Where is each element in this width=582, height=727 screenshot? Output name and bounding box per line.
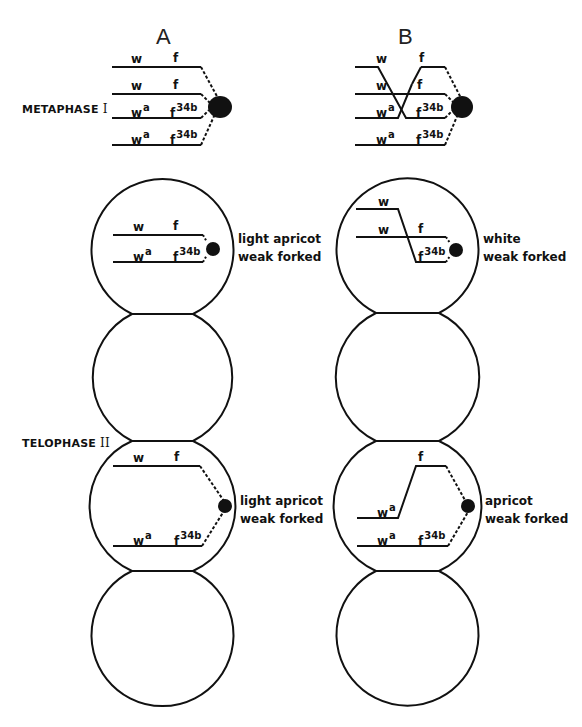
gene-f34b: f34b <box>418 531 445 547</box>
gene-wa: wa <box>133 531 152 547</box>
gene-w: w <box>133 221 144 233</box>
centromere-meta-a <box>208 96 232 118</box>
gene-w: w <box>376 80 387 92</box>
phenotype-line: white <box>483 230 566 248</box>
phenotype-line: weak forked <box>238 248 321 266</box>
phenotype-line: apricot <box>485 492 568 510</box>
centromere-top-a <box>206 242 220 256</box>
gene-w: w <box>131 53 142 65</box>
cells-column-a <box>90 179 236 706</box>
gene-wa: wa <box>376 103 395 119</box>
gene-f34b: f34b <box>174 531 201 547</box>
phenotype-line: light apricot <box>238 230 321 248</box>
gene-f34b: f34b <box>416 130 443 146</box>
phenotype-line: weak forked <box>485 510 568 528</box>
phenotype-line: weak forked <box>483 248 566 266</box>
gene-f34b: f34b <box>418 247 445 263</box>
gene-wa: wa <box>377 531 396 547</box>
gene-f: f <box>417 79 422 91</box>
gene-wa: wa <box>376 130 395 146</box>
gene-f34b: f34b <box>173 247 200 263</box>
gene-f: f <box>418 451 423 463</box>
cells-column-b <box>334 178 482 705</box>
gene-wa: wa <box>131 130 150 146</box>
telo-b-chromatid-1 <box>357 466 446 518</box>
phenotype-telo-b: apricot weak forked <box>485 492 568 528</box>
gene-f: f <box>173 220 178 232</box>
centromere-top-b <box>449 243 463 257</box>
phenotype-top-b: white weak forked <box>483 230 566 266</box>
gene-f: f <box>419 52 424 64</box>
gene-w: w <box>131 80 142 92</box>
gene-wa: wa <box>133 247 152 263</box>
gene-f: f <box>418 223 423 235</box>
centromere-telo-a <box>218 499 232 513</box>
gene-f34b: f34b <box>416 103 443 119</box>
gene-wa: wa <box>131 103 150 119</box>
gene-f: f <box>173 52 178 64</box>
phenotype-top-a: light apricot weak forked <box>238 230 321 266</box>
gene-w: w <box>376 53 387 65</box>
phenotype-line: light apricot <box>240 492 323 510</box>
gene-wa: wa <box>377 503 396 519</box>
centromere-meta-b <box>451 96 473 118</box>
gene-f: f <box>173 79 178 91</box>
gene-w: w <box>378 196 389 208</box>
phenotype-line: weak forked <box>240 510 323 528</box>
gene-f: f <box>174 451 179 463</box>
gene-f34b: f34b <box>170 103 197 119</box>
centromere-telo-b <box>461 499 475 513</box>
gene-f34b: f34b <box>170 130 197 146</box>
phenotype-telo-a: light apricot weak forked <box>240 492 323 528</box>
gene-w: w <box>133 452 144 464</box>
gene-w: w <box>378 224 389 236</box>
meiosis-diagram <box>0 0 582 727</box>
